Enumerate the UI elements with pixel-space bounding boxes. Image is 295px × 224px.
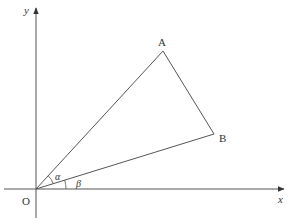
- segment-oa: [36, 51, 163, 189]
- segment-ob: [36, 134, 214, 189]
- segment-ab: [163, 51, 214, 134]
- x-axis-label: x: [277, 193, 283, 205]
- angle-beta-arc: [65, 180, 66, 189]
- y-axis-label: y: [23, 4, 29, 16]
- point-a-label: A: [158, 36, 166, 48]
- angle-beta-label: β: [75, 178, 81, 189]
- diagram-canvas: y x O A B α β: [0, 0, 295, 224]
- origin-label: O: [22, 195, 30, 207]
- angle-alpha-arc: [48, 176, 53, 184]
- point-b-label: B: [219, 132, 226, 144]
- angle-alpha-label: α: [55, 171, 61, 182]
